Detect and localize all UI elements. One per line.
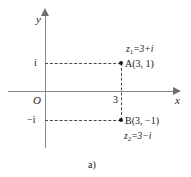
y-axis-label: y [36, 14, 41, 25]
complex-plane-figure: y x O i −i 3 A(3, 1) B(3, −1) z1=3+i z2=… [0, 0, 191, 177]
origin-label: O [33, 95, 41, 106]
point-marker-a [119, 61, 123, 65]
point-marker-b [119, 118, 123, 122]
x-tick-label-three: 3 [113, 95, 118, 105]
y-axis-line [45, 14, 46, 148]
point-label-a: A(3, 1) [125, 59, 154, 69]
guide-line-vertical [121, 63, 122, 120]
equation-label-z2: z2=3−i [124, 132, 151, 142]
equation-z1-subscript: 1 [130, 48, 134, 56]
equation-z1-rhs: =3+i [133, 44, 153, 54]
guide-line-horizontal-upper [45, 63, 121, 64]
y-tick-label-negative-i: −i [27, 115, 35, 125]
guide-line-horizontal-lower [45, 120, 121, 121]
equation-label-z1: z1=3+i [126, 45, 153, 55]
point-label-b: B(3, −1) [125, 116, 159, 126]
figure-caption: a) [88, 160, 96, 170]
equation-z2-rhs: =3−i [131, 131, 151, 141]
equation-z2-subscript: 2 [128, 135, 132, 143]
y-axis-arrow-icon [41, 8, 49, 16]
x-axis-label: x [175, 95, 180, 106]
y-tick-label-i: i [34, 58, 37, 68]
x-axis-line [8, 91, 175, 92]
